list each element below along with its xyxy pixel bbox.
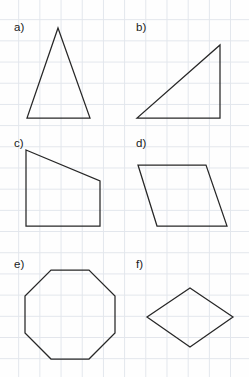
shape-e-octagon bbox=[25, 270, 115, 359]
shape-label-f: f) bbox=[136, 259, 143, 271]
shape-d-parallelogram bbox=[138, 165, 227, 226]
shapes-layer bbox=[0, 0, 249, 377]
shape-label-a: a) bbox=[14, 22, 24, 34]
shape-b-triangle-right bbox=[137, 45, 220, 118]
shape-c-trapezoid-right bbox=[26, 150, 100, 226]
shape-label-e: e) bbox=[14, 259, 24, 271]
shape-a-triangle-isosceles bbox=[27, 28, 90, 118]
worksheet-canvas: a) b) c) d) e) f) bbox=[0, 0, 249, 377]
shape-label-b: b) bbox=[136, 22, 146, 34]
shape-label-c: c) bbox=[14, 138, 24, 150]
shape-label-d: d) bbox=[136, 138, 146, 150]
shape-f-rhombus bbox=[147, 288, 233, 347]
